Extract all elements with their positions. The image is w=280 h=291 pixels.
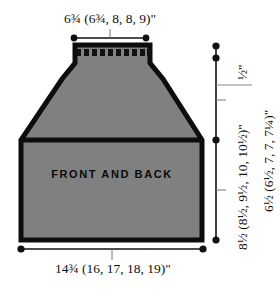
neckband-height-label: ½" <box>236 64 250 80</box>
right-inner-dimension-line <box>212 42 226 243</box>
top-width-label: 6¾ (6¾, 8, 8, 9)" <box>0 12 220 26</box>
piece-label: FRONT AND BACK <box>22 168 202 180</box>
yoke-height-label: 6½ (6½, 7, 7, 7¼)" <box>262 110 276 212</box>
body-height-label: 8½ (8½, 9½, 10, 10½)" <box>236 124 250 250</box>
bottom-width-label: 14¾ (16, 17, 18, 19)" <box>0 262 226 276</box>
bottom-width-dimension-line <box>17 245 206 260</box>
garment-schematic: 6¾ (6¾, 8, 8, 9)" 14¾ (16, 17, 18, 19)" … <box>0 0 280 291</box>
top-width-dimension-line <box>71 29 150 41</box>
